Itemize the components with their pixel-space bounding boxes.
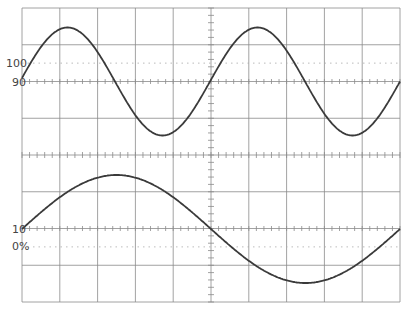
- oscilloscope-display: [0, 0, 412, 313]
- label-100-percent: 100: [6, 58, 27, 69]
- label-0-percent: 0%: [12, 241, 29, 252]
- label-10-percent: 10: [12, 224, 26, 235]
- label-90-percent: 90: [12, 77, 26, 88]
